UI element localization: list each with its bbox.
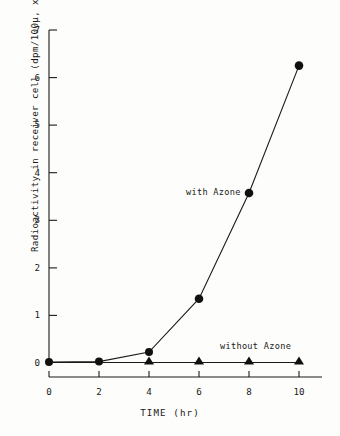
series-markers-without-azone [144,357,304,365]
marker-circle-4hr [145,348,153,356]
marker-triangle-8hr [244,357,254,365]
marker-circle-2hr [95,358,103,366]
marker-circle-6hr [195,294,204,303]
marker-triangle-4hr [144,357,154,365]
plot-canvas [0,0,340,436]
marker-circle-0hr [45,358,53,366]
series-line-with-azone [49,66,299,362]
marker-triangle-10hr [294,357,304,365]
series-markers-with-azone [45,61,303,366]
y-axis-ticks [49,30,57,315]
chart-figure: Radioactivity in receiver cell (dpm/100μ… [0,0,340,436]
marker-circle-10hr [295,61,304,70]
x-axis-ticks [49,371,299,377]
marker-triangle-6hr [194,357,204,365]
marker-circle-8hr [245,189,254,198]
